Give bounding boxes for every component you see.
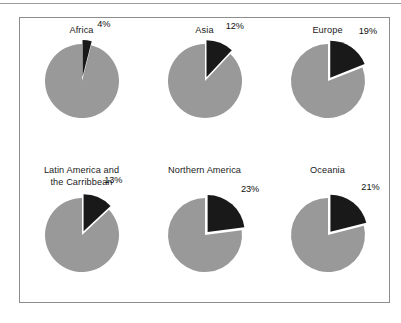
- pie-figure-asia: [152, 28, 258, 134]
- pie-value-label-asia: 12%: [226, 21, 244, 31]
- pie-panel-africa: Africa 4%: [20, 18, 143, 160]
- figure-frame: Africa 4% Asia 12% Europe 19% Latin Amer…: [19, 17, 390, 303]
- pie-panel-asia: Asia 12%: [143, 18, 266, 160]
- pie-figure-latin-america-and-the-carribbean: [29, 182, 135, 288]
- pie-title-oceania: Oceania: [266, 165, 389, 177]
- pie-value-label-oceania: 21%: [361, 182, 379, 192]
- pie-value-label-africa: 4%: [97, 19, 110, 29]
- pie-figure-europe: [275, 28, 381, 134]
- pie-panel-northern-america: Northern America 23%: [143, 160, 266, 302]
- page-top-rule: [0, 3, 401, 4]
- pie-figure-northern-america: [152, 182, 258, 288]
- pie-value-label-latin-america-and-the-carribbean: 13%: [104, 175, 122, 185]
- pie-value-label-europe: 19%: [359, 26, 377, 36]
- pie-panel-oceania: Oceania 21%: [266, 160, 389, 302]
- pie-chart-grid: Africa 4% Asia 12% Europe 19% Latin Amer…: [20, 18, 389, 302]
- pie-title-northern-america: Northern America: [143, 165, 266, 177]
- pie-figure-africa: [29, 28, 135, 134]
- pie-value-label-northern-america: 23%: [241, 184, 259, 194]
- pie-panel-europe: Europe 19%: [266, 18, 389, 160]
- pie-panel-latin-america-and-the-carribbean: Latin America and the Carribbean 13%: [20, 160, 143, 302]
- pie-figure-oceania: [275, 182, 381, 288]
